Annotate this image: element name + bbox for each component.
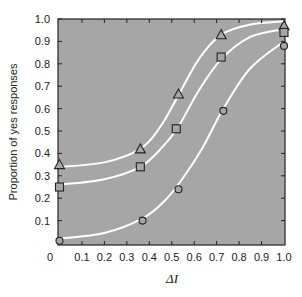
x-tick-label: 0.6 — [187, 251, 202, 263]
square-marker — [136, 163, 144, 171]
y-tick-label: 0.5 — [35, 125, 50, 137]
x-axis-label: ΔI — [165, 271, 179, 286]
y-tick-label: 0.2 — [35, 192, 50, 204]
y-tick-label: 0.6 — [35, 103, 50, 115]
x-tick-label: 0.3 — [119, 251, 134, 263]
y-tick-label: 0.8 — [35, 58, 50, 70]
x-tick-label: 1.0 — [276, 251, 291, 263]
y-tick-label: 0.3 — [35, 170, 50, 182]
x-tick-label: 0.8 — [231, 251, 246, 263]
y-tick-label: 0.1 — [35, 215, 50, 227]
y-tick-label: 0.4 — [35, 147, 50, 159]
circle-marker — [220, 107, 227, 114]
circle-marker — [175, 186, 182, 193]
circle-marker — [56, 237, 63, 244]
x-tick-label: 0.5 — [164, 251, 179, 263]
y-tick-label: 1.0 — [35, 13, 50, 25]
circle-marker — [281, 42, 288, 49]
x-tick-label: 0.1 — [74, 251, 89, 263]
y-tick-label: 0.9 — [35, 35, 50, 47]
y-tick-label: 0.7 — [35, 80, 50, 92]
x-tick-label: 0.9 — [254, 251, 269, 263]
psychometric-chart: 0.10.20.30.40.50.60.70.80.91.0 00.10.20.… — [0, 0, 302, 297]
square-marker — [217, 53, 225, 61]
x-tick-label: 0.2 — [97, 251, 112, 263]
circle-marker — [139, 217, 146, 224]
x-tick-label: 0 — [47, 251, 53, 263]
x-tick-label: 0.4 — [142, 251, 157, 263]
plot-area — [58, 19, 285, 245]
y-axis-label: Proportion of yes responses — [7, 63, 19, 200]
square-marker — [172, 125, 180, 133]
x-tick-label: 0.7 — [209, 251, 224, 263]
square-marker — [56, 183, 64, 191]
square-marker — [280, 28, 288, 36]
